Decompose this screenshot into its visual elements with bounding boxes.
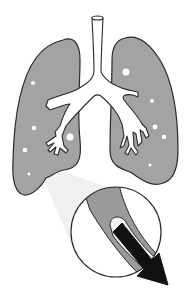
alveolus-dot (153, 125, 158, 130)
alveolus-dot (162, 135, 166, 139)
lung-diagram (0, 0, 190, 305)
alveolus-dot (67, 134, 74, 141)
alveolus-dot (31, 81, 35, 85)
alveolus-dot (23, 148, 28, 153)
alveolus-dot (28, 173, 31, 176)
alveolus-dot (32, 126, 37, 131)
alveolus-dot (149, 164, 152, 167)
alveolus-dot (150, 99, 154, 103)
trachea-opening (92, 16, 103, 20)
alveolus-dot (123, 69, 130, 76)
